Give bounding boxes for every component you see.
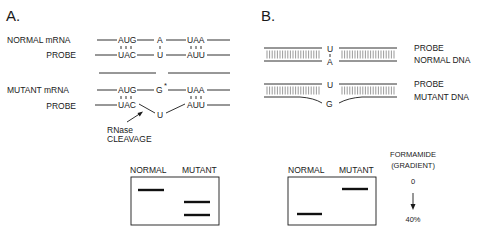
cleavage-arrow-icon (127, 112, 143, 123)
base-u-loop: U (157, 110, 163, 120)
codon-uaa: UAA (187, 85, 205, 95)
base-u: U (157, 50, 163, 60)
mutation-asterisk: * (164, 81, 167, 90)
codon-uac: UAC (118, 100, 136, 110)
mutant-probe-label: PROBE (414, 79, 444, 89)
gradient-end-value: 40% (405, 215, 420, 224)
gradient-start-value: 0 (411, 177, 415, 186)
mutant-dna-label: MUTANT DNA (414, 92, 469, 102)
gel-a-lane-normal: NORMAL (130, 165, 167, 175)
normal-probe-label: PROBE (414, 43, 444, 53)
formamide-label: FORMAMIDE (390, 150, 436, 159)
gel-b-lane-mutant: MUTANT (339, 165, 374, 175)
normal-mrna-label: NORMAL mRNA (7, 35, 71, 45)
panel-b-title: B. (261, 7, 275, 24)
normal-dna-label: NORMAL DNA (414, 55, 471, 65)
gel-a-lane-mutant: MUTANT (182, 165, 217, 175)
base-a: A (157, 35, 163, 45)
diagram-canvas: A. NORMAL mRNA PROBE AUG A UAA UAC U AUU… (0, 0, 483, 231)
normal-probe-label: PROBE (46, 50, 76, 60)
normal-hybrid-strands: AUG A UAA UAC U AUU (95, 35, 230, 60)
codon-uac: UAC (118, 50, 136, 60)
gradient-label: (GRADIENT) (391, 161, 435, 170)
codon-aug: AUG (118, 85, 136, 95)
gradient-arrow-icon (411, 193, 416, 210)
mutant-hybrid-strands: AUG G * UAA UAC U AUU (95, 81, 230, 120)
codon-aug: AUG (118, 35, 136, 45)
gel-b-lane-normal: NORMAL (288, 165, 325, 175)
base-g-mutant: G (156, 85, 163, 95)
normal-top-base: U (327, 44, 333, 54)
codon-uaa: UAA (187, 35, 205, 45)
mutant-top-base: U (327, 80, 333, 90)
mutant-bottom-base: G (326, 99, 333, 109)
cleavage-label: CLEAVAGE (107, 134, 152, 144)
mutant-probe-label: PROBE (46, 101, 76, 111)
normal-bottom-base: A (327, 57, 333, 67)
gel-b-box (288, 177, 376, 225)
codon-auu: AUU (187, 100, 205, 110)
mutant-mrna-label: MUTANT mRNA (7, 85, 69, 95)
panel-a-title: A. (6, 7, 20, 24)
codon-auu: AUU (187, 50, 205, 60)
